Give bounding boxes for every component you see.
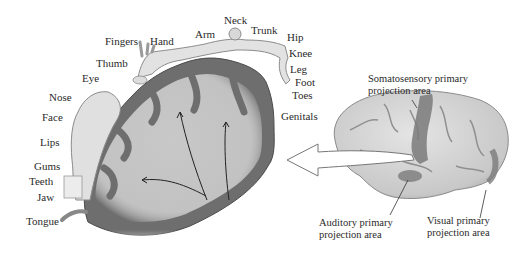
label-lips: Lips xyxy=(40,136,60,148)
label-toes: Toes xyxy=(292,89,313,101)
label-thumb: Thumb xyxy=(96,57,128,69)
label-gums: Gums xyxy=(34,160,60,172)
label-foot: Foot xyxy=(295,76,315,88)
label-fingers: Fingers xyxy=(105,35,138,47)
label-leg: Leg xyxy=(290,63,307,75)
label-tongue: Tongue xyxy=(26,215,59,227)
label-auditory-area: Auditory primary projection area xyxy=(319,217,393,241)
label-hip: Hip xyxy=(287,31,304,43)
label-hand: Hand xyxy=(150,35,174,47)
label-nose: Nose xyxy=(49,91,72,103)
label-face: Face xyxy=(42,111,63,123)
cortex-section xyxy=(80,58,280,250)
label-neck: Neck xyxy=(224,14,247,26)
label-knee: Knee xyxy=(289,47,312,59)
label-somatosensory-area: Somatosensory primary projection area xyxy=(368,73,468,97)
label-jaw: Jaw xyxy=(37,191,54,203)
label-visual-area: Visual primary projection area xyxy=(427,215,490,239)
label-arm: Arm xyxy=(195,28,215,40)
label-trunk: Trunk xyxy=(251,24,278,36)
label-teeth: Teeth xyxy=(29,175,53,187)
label-eye: Eye xyxy=(82,72,99,84)
homunculus-diagram: Fingers Hand Arm Neck Trunk Hip Knee Leg… xyxy=(0,0,521,255)
label-genitals: Genitals xyxy=(281,110,318,122)
